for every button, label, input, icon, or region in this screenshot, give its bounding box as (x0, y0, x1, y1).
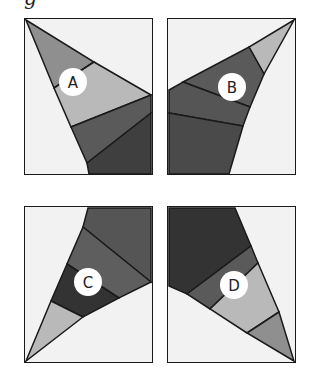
figure-caption-fragment: g (24, 0, 37, 10)
label-a-badge: A (59, 68, 87, 96)
label-c: C (83, 274, 93, 292)
label-d: D (228, 277, 240, 295)
label-a: A (68, 74, 79, 92)
panel-c: C (24, 206, 153, 363)
label-d-badge: D (220, 271, 248, 299)
panel-d: D (167, 206, 296, 363)
panel-b: B (167, 18, 296, 175)
panel-b-diagram: B (167, 18, 296, 175)
label-b: B (227, 79, 237, 97)
label-c-badge: C (74, 268, 102, 296)
panel-a: A (24, 18, 153, 175)
panel-a-diagram: A (24, 18, 153, 175)
label-b-badge: B (218, 73, 246, 101)
panel-d-diagram: D (167, 206, 296, 363)
panel-c-diagram: C (24, 206, 153, 363)
